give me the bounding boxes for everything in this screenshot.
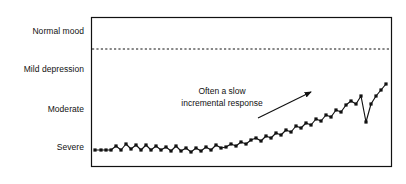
- data-point-marker: [274, 131, 277, 134]
- data-point-marker: [314, 117, 317, 120]
- data-point-marker: [224, 145, 227, 148]
- data-point-marker: [294, 124, 297, 127]
- data-point-marker: [219, 146, 222, 149]
- data-point-marker: [104, 148, 107, 151]
- data-point-marker: [349, 99, 352, 102]
- data-point-marker: [304, 121, 307, 124]
- series-markers: [93, 82, 387, 153]
- data-point-marker: [239, 140, 242, 143]
- data-point-marker: [194, 146, 197, 149]
- data-point-marker: [134, 143, 137, 146]
- data-point-marker: [119, 148, 122, 151]
- data-point-marker: [269, 136, 272, 139]
- depression-trajectory-chart: Normal mood Mild depression Moderate Sev…: [0, 0, 406, 184]
- data-point-marker: [209, 148, 212, 151]
- data-point-marker: [169, 149, 172, 152]
- data-point-marker: [164, 145, 167, 148]
- data-point-marker: [234, 144, 237, 147]
- data-point-marker: [359, 94, 362, 97]
- data-point-marker: [144, 143, 147, 146]
- data-point-marker: [109, 148, 112, 151]
- data-point-marker: [139, 148, 142, 151]
- data-point-marker: [259, 139, 262, 142]
- data-point-marker: [174, 144, 177, 147]
- data-point-marker: [354, 102, 357, 105]
- data-point-marker: [264, 134, 267, 137]
- data-point-marker: [99, 148, 102, 151]
- data-point-marker: [339, 110, 342, 113]
- data-point-marker: [159, 148, 162, 151]
- data-point-marker: [214, 143, 217, 146]
- data-point-marker: [179, 149, 182, 152]
- data-point-marker: [289, 130, 292, 133]
- data-point-marker: [334, 108, 337, 111]
- data-point-marker: [319, 119, 322, 122]
- data-point-marker: [344, 103, 347, 106]
- plot-canvas: [0, 0, 406, 184]
- data-point-marker: [309, 123, 312, 126]
- data-point-marker: [149, 148, 152, 151]
- data-point-marker: [129, 147, 132, 150]
- data-point-marker: [154, 144, 157, 147]
- data-point-marker: [329, 115, 332, 118]
- data-point-marker: [379, 88, 382, 91]
- data-point-marker: [374, 94, 377, 97]
- data-point-marker: [279, 133, 282, 136]
- data-point-marker: [93, 148, 96, 151]
- data-point-marker: [204, 145, 207, 148]
- data-point-marker: [299, 126, 302, 129]
- data-point-marker: [284, 128, 287, 131]
- data-point-marker: [384, 82, 387, 85]
- data-point-marker: [249, 138, 252, 141]
- data-point-marker: [254, 136, 257, 139]
- annotation-arrow-icon: [258, 92, 311, 118]
- data-point-marker: [364, 120, 367, 123]
- data-point-marker: [324, 113, 327, 116]
- data-point-marker: [199, 149, 202, 152]
- data-point-marker: [189, 150, 192, 153]
- data-point-marker: [184, 146, 187, 149]
- data-point-marker: [244, 142, 247, 145]
- data-point-marker: [229, 142, 232, 145]
- data-point-marker: [114, 144, 117, 147]
- data-point-marker: [369, 102, 372, 105]
- data-point-marker: [124, 142, 127, 145]
